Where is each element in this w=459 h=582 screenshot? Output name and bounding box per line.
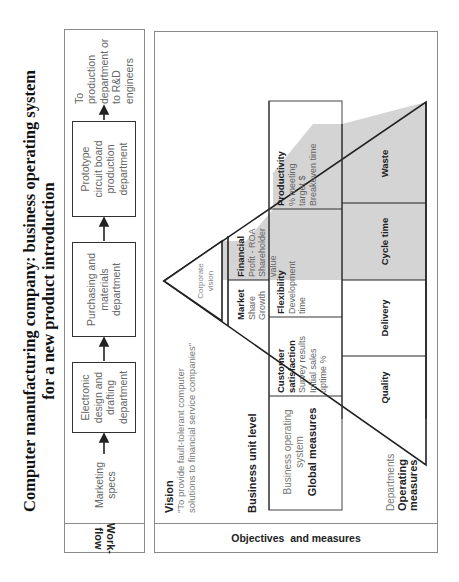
vision-block: Vision "To provide fault-tolerant comput…	[164, 253, 197, 513]
cell-line: Development	[287, 261, 298, 314]
cell-customer-satisfaction: Customer satisfaction Survey results Ini…	[270, 319, 329, 393]
diagram-canvas: Computer manufacturing company: business…	[0, 0, 459, 582]
corporate-vision-line2: vision	[206, 250, 216, 312]
cell-line: Breakeven time	[308, 143, 319, 206]
cell-cycle-time: Cycle time	[342, 203, 426, 280]
business-operating-system-label: Business operating system Global measure…	[282, 398, 318, 506]
cell-heading: Productivity	[276, 151, 287, 206]
corporate-vision-label: Corporate vision	[196, 250, 215, 312]
vision-heading: Vision	[164, 253, 175, 513]
bos-line3: Global measures	[306, 398, 318, 506]
cell-line: Shareholder	[257, 228, 268, 277]
cell-line: Survey results	[297, 336, 308, 393]
cell-heading: Flexibility	[276, 270, 287, 314]
cell-heading: Customer	[276, 349, 287, 393]
cell-line: % meeting	[287, 163, 298, 206]
business-unit-level-label: Business unit level	[246, 413, 258, 513]
cell-line: Initial sales	[308, 348, 319, 393]
vision-text-line1: "To provide fault-tolerant computer	[175, 253, 186, 513]
bos-line2: system	[294, 398, 306, 506]
cell-line: time	[297, 297, 308, 314]
cell-line: target $	[297, 175, 308, 206]
cell-waste: Waste	[342, 124, 426, 203]
cell-line: Growth	[257, 291, 268, 320]
bos-line1: Business operating	[282, 398, 294, 506]
cell-productivity: Productivity % meeting target $ Breakeve…	[270, 106, 318, 206]
cell-heading: satisfaction	[287, 340, 298, 393]
cell-line: Share	[247, 296, 258, 320]
cell-market: Market Share Growth	[230, 280, 268, 320]
cell-line: Profit - ROA	[247, 228, 258, 277]
cell-heading: Market	[236, 289, 247, 320]
departments-line3: measures	[408, 454, 420, 511]
cell-quality: Quality	[342, 356, 426, 419]
departments-line1: Departments	[385, 454, 397, 511]
corporate-vision-line1: Corporate	[196, 250, 206, 312]
cell-delivery: Delivery	[342, 280, 426, 356]
departments-label: Departments Operating measures	[385, 454, 420, 511]
cell-flexibility: Flexibility Development time	[270, 214, 308, 314]
cell-line: uptime %	[318, 355, 329, 393]
cell-heading: Financial	[236, 236, 247, 277]
